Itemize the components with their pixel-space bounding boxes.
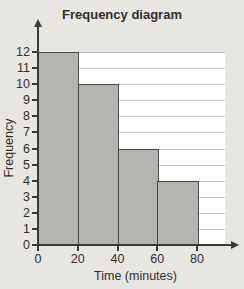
- y-tick-label-9: 9: [0, 92, 30, 108]
- y-tick-label-2: 2: [0, 205, 30, 221]
- y-tick-11: [32, 67, 38, 69]
- y-tick-label-8: 8: [0, 108, 30, 124]
- y-tick-7: [32, 131, 38, 133]
- y-tick-2: [32, 212, 38, 214]
- x-tick-label-0: 0: [22, 252, 54, 267]
- frequency-diagram-figure: Frequency diagram Frequency 012345678910…: [0, 0, 244, 289]
- y-tick-label-3: 3: [0, 189, 30, 205]
- bar-60-80: [157, 181, 198, 245]
- y-tick-3: [32, 196, 38, 198]
- x-tick-label-80: 80: [181, 252, 213, 267]
- y-tick-12: [32, 51, 38, 53]
- y-tick-4: [32, 180, 38, 182]
- x-tick-label-40: 40: [102, 252, 134, 267]
- bar-20-40: [78, 84, 119, 245]
- y-tick-9: [32, 99, 38, 101]
- x-tick-60: [156, 246, 158, 251]
- x-tick-80: [196, 246, 198, 251]
- y-tick-5: [32, 164, 38, 166]
- y-tick-1: [32, 228, 38, 230]
- y-tick-label-10: 10: [0, 76, 30, 92]
- x-tick-0: [37, 246, 39, 251]
- x-tick-label-60: 60: [141, 252, 173, 267]
- y-axis-arrowhead-icon: [34, 19, 42, 27]
- y-tick-label-0: 0: [0, 237, 30, 253]
- y-tick-label-5: 5: [0, 157, 30, 173]
- x-axis-label: Time (minutes): [38, 269, 233, 283]
- y-tick-label-4: 4: [0, 173, 30, 189]
- y-tick-label-12: 12: [0, 44, 30, 60]
- y-tick-10: [32, 83, 38, 85]
- y-tick-6: [32, 148, 38, 150]
- plot-area: [38, 52, 225, 245]
- y-tick-label-11: 11: [0, 60, 30, 76]
- y-tick-label-1: 1: [0, 221, 30, 237]
- x-tick-40: [117, 246, 119, 251]
- y-tick-label-7: 7: [0, 124, 30, 140]
- x-tick-label-20: 20: [62, 252, 94, 267]
- x-tick-20: [77, 246, 79, 251]
- y-tick-label-6: 6: [0, 141, 30, 157]
- bar-40-60: [118, 149, 159, 246]
- x-axis-line: [37, 244, 232, 246]
- y-tick-8: [32, 115, 38, 117]
- bar-0-20: [38, 52, 79, 245]
- x-axis-arrowhead-icon: [231, 241, 239, 249]
